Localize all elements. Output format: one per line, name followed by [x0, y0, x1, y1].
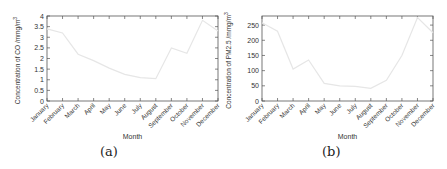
- x-tick-label: April: [297, 101, 312, 116]
- x-tick-label: June: [113, 101, 128, 116]
- x-axis-label: Month: [123, 133, 143, 140]
- x-tick-label: March: [278, 101, 296, 119]
- caption-b: (b): [322, 144, 340, 159]
- y-tick-label: 0.5: [34, 87, 44, 94]
- y-axis-label: Concentration of CO /mmg/m3: [12, 17, 22, 105]
- y-axis-label: Concentration of PM2.5 /mmg/m3: [223, 12, 233, 109]
- y-tick-label: 1: [40, 76, 44, 83]
- x-tick-label: April: [82, 101, 97, 116]
- y-tick-label: 3: [40, 34, 44, 41]
- x-tick-label: June: [328, 101, 343, 116]
- figure-panel-a: 00.511.522.533.54JanuaryFebruaryMarchApr…: [0, 0, 224, 169]
- y-tick-label: 1.5: [34, 66, 44, 73]
- y-tick-label: 100: [247, 67, 259, 74]
- x-tick-label: March: [63, 101, 81, 119]
- caption-a: (a): [100, 144, 118, 159]
- series-line: [47, 20, 218, 78]
- y-tick-label: 4: [40, 13, 44, 20]
- y-tick-label: 3.5: [34, 23, 44, 30]
- y-tick-label: 50: [251, 82, 259, 89]
- x-tick-label: May: [98, 101, 113, 116]
- plot-frame: [262, 16, 433, 101]
- figure-panel-b: 050100150200250JanuaryFebruaryMarchApril…: [223, 0, 447, 169]
- y-tick-label: 150: [247, 52, 259, 59]
- x-tick-label: May: [313, 101, 328, 116]
- plot-frame: [47, 16, 218, 101]
- y-tick-label: 2.5: [34, 44, 44, 51]
- y-tick-label: 2: [40, 55, 44, 62]
- y-tick-label: 200: [247, 37, 259, 44]
- y-tick-label: 250: [247, 22, 259, 29]
- series-line: [262, 18, 433, 89]
- x-axis-label: Month: [338, 133, 358, 140]
